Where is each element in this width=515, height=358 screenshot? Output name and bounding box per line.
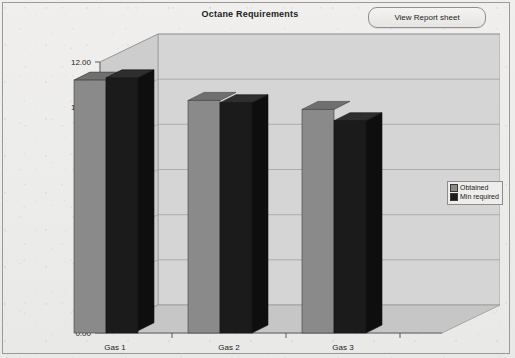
y-tick-label: 12.00 — [71, 58, 92, 67]
bar-gas1-min-required — [106, 70, 154, 333]
x-tick-label: Gas 1 — [104, 343, 126, 352]
chart-plot-area: 0.00 2.00 4.00 6.00 8.00 10.00 12.00 — [12, 30, 500, 356]
bar-gas3-min-required — [334, 113, 382, 333]
chart-legend: Obtained Min required — [447, 181, 503, 205]
bar-gas2-min-required — [220, 95, 268, 333]
x-axis-tick-labels: Gas 1 Gas 2 Gas 3 — [104, 343, 354, 352]
legend-item-min-required[interactable]: Min required — [450, 193, 499, 201]
page-title: Octane Requirements — [150, 9, 350, 19]
x-tick-label: Gas 3 — [332, 343, 354, 352]
legend-item-obtained[interactable]: Obtained — [450, 184, 499, 192]
view-report-sheet-button[interactable]: View Report sheet — [368, 7, 486, 28]
chart-floor — [100, 305, 500, 333]
bar-chart-svg: 0.00 2.00 4.00 6.00 8.00 10.00 12.00 — [12, 30, 500, 356]
legend-swatch-obtained — [450, 184, 458, 192]
legend-swatch-min-required — [450, 193, 458, 201]
legend-label-obtained: Obtained — [460, 184, 488, 192]
legend-label-min-required: Min required — [460, 193, 499, 201]
x-tick-label: Gas 2 — [218, 343, 240, 352]
x-axis-ticks — [172, 333, 400, 338]
